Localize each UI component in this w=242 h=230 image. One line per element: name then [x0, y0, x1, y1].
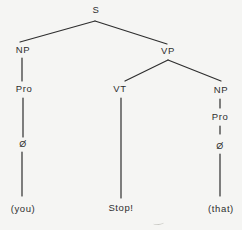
node-pro-right: Pro — [212, 112, 229, 122]
tree-edges — [0, 0, 242, 230]
node-np-right: NP — [214, 85, 228, 95]
node-null-left: Ø — [19, 140, 27, 149]
node-null-right: Ø — [216, 142, 224, 151]
edge-vp-np-right — [168, 60, 221, 81]
leaf-stop: Stop! — [108, 203, 133, 213]
edge-vp-vt — [125, 60, 168, 81]
node-s: S — [93, 5, 100, 15]
syntax-tree-diagram: S NP VP Pro VT NP Pro Ø Ø (you) Stop! (t… — [0, 0, 242, 230]
node-vt: VT — [113, 84, 126, 94]
edge-s-vp — [95, 21, 167, 44]
node-vp: VP — [161, 46, 175, 56]
leaf-that: (that) — [208, 204, 234, 214]
node-pro-left: Pro — [16, 84, 33, 94]
node-np-left: NP — [16, 45, 30, 55]
edge-s-np-left — [20, 21, 95, 42]
leaf-you: (you) — [11, 204, 36, 214]
